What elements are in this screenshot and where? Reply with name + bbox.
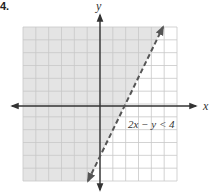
- y-axis-label: y: [95, 0, 102, 13]
- problem-number: 4.: [0, 0, 9, 12]
- inequality-label: 2x − y < 4: [128, 118, 175, 130]
- graph: 4. x y 2x − y < 4: [0, 0, 212, 192]
- x-axis-label: x: [202, 99, 209, 113]
